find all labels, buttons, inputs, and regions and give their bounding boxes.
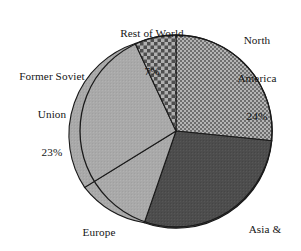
pie-label-north-america: North America 24% — [218, 9, 296, 148]
pie-label-rest-of-world-name: Rest of World — [96, 27, 208, 40]
pie-label-north-america-name-line1: North — [218, 34, 296, 47]
pie-label-asia-australia-name-line1: Asia & — [230, 223, 300, 236]
pie-chart: Rest of World 7% North America 24% Forme… — [0, 0, 301, 251]
pie-label-europe: Europe 15% — [58, 201, 140, 251]
pie-label-former-soviet-union-name-line2: Union — [2, 108, 102, 121]
pie-label-former-soviet-union-value: 23% — [2, 146, 102, 159]
pie-label-former-soviet-union-name-line1: Former Soviet — [2, 70, 102, 83]
pie-label-north-america-value: 24% — [218, 110, 296, 123]
pie-label-former-soviet-union: Former Soviet Union 23% — [2, 45, 102, 184]
pie-label-rest-of-world-value: 7% — [96, 65, 208, 78]
pie-label-asia-australia: Asia & Australia 31% — [230, 198, 300, 251]
pie-label-rest-of-world: Rest of World 7% — [96, 2, 208, 103]
pie-label-europe-name: Europe — [58, 226, 140, 239]
pie-label-north-america-name-line2: America — [218, 72, 296, 85]
